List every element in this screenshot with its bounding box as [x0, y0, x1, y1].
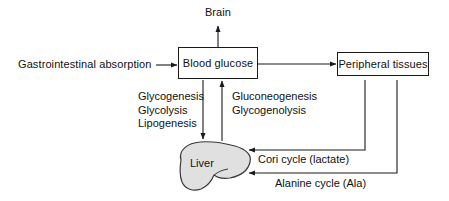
node-liver-text: Liver: [190, 157, 214, 169]
pathway-label-glycogenolysis: Glycogenolysis: [232, 104, 317, 118]
node-peripheral-tissues-label: Peripheral tissues: [338, 58, 427, 71]
edge-label-cori-cycle: Cori cycle (lactate): [258, 153, 349, 165]
glucose-metabolism-diagram: Brain Gastrointestinal absorption Blood …: [0, 0, 449, 201]
node-brain-label: Brain: [205, 6, 231, 18]
node-liver-label: Liver: [190, 157, 214, 169]
node-gastrointestinal-absorption-label: Gastrointestinal absorption: [18, 58, 152, 70]
pathway-label-lipogenesis: Lipogenesis: [138, 117, 204, 131]
node-blood-glucose: Blood glucose: [178, 47, 258, 79]
node-brain: Brain: [200, 6, 236, 19]
pathway-label-glycolysis: Glycolysis: [138, 104, 204, 118]
edge-label-alanine-cycle: Alanine cycle (Ala): [275, 177, 366, 189]
edge-label-alanine-cycle-text: Alanine cycle (Ala): [275, 177, 366, 189]
node-blood-glucose-label: Blood glucose: [183, 57, 253, 70]
pathway-label-to-liver: Glycogenesis Glycolysis Lipogenesis: [138, 90, 204, 131]
pathway-label-glycogenesis: Glycogenesis: [138, 90, 204, 104]
node-peripheral-tissues: Peripheral tissues: [337, 52, 429, 76]
node-gastrointestinal-absorption: Gastrointestinal absorption: [18, 58, 152, 71]
pathway-label-from-liver: Gluconeogenesis Glycogenolysis: [232, 90, 317, 117]
diagram-connector-layer: [0, 0, 449, 201]
edge-label-cori-cycle-text: Cori cycle (lactate): [258, 153, 349, 165]
pathway-label-gluconeogenesis: Gluconeogenesis: [232, 90, 317, 104]
